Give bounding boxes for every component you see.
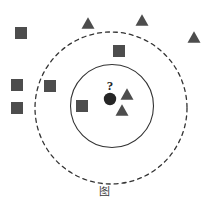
triangle-markers-group	[82, 14, 201, 115]
knn-scatter-plot: ?	[0, 0, 210, 197]
square-3	[44, 80, 56, 92]
triangle-5	[116, 104, 129, 115]
unknown-sample-point	[104, 93, 116, 105]
square-1	[15, 27, 27, 39]
square-6	[76, 100, 88, 112]
triangle-1	[82, 17, 95, 28]
unknown-sample-label: ?	[107, 78, 114, 93]
outer-neighborhood-circle	[35, 32, 187, 184]
square-5	[113, 45, 125, 57]
figure-caption: 图	[0, 186, 210, 197]
triangle-2	[136, 14, 149, 25]
knn-figure: ? 图	[0, 0, 210, 197]
triangle-3	[188, 31, 201, 42]
square-4	[11, 102, 23, 114]
square-2	[11, 79, 23, 91]
triangle-4	[121, 88, 134, 99]
